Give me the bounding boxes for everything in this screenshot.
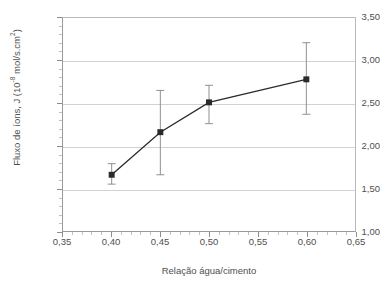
x-tick-label: 0,40 [91, 236, 131, 247]
x-minor-tick [248, 232, 249, 235]
x-minor-tick [91, 232, 92, 235]
data-point-marker [109, 172, 115, 178]
y-axis-title-exponent: -8 [9, 77, 16, 83]
x-minor-tick [72, 232, 73, 235]
x-minor-tick [189, 232, 190, 235]
x-minor-tick [140, 232, 141, 235]
x-minor-tick [297, 232, 298, 235]
y-axis-title-base: Fluxo de íons, J (10 [11, 82, 22, 165]
x-minor-tick [131, 232, 132, 235]
x-tick-mark [160, 232, 161, 237]
x-minor-tick [336, 232, 337, 235]
x-minor-tick [199, 232, 200, 235]
y-axis-title-close: ) [11, 29, 22, 32]
clipped-title [96, 0, 286, 7]
data-point-marker [303, 76, 309, 82]
x-minor-tick [170, 232, 171, 235]
x-tick-mark [209, 232, 210, 237]
x-minor-tick [82, 232, 83, 235]
x-tick-label: 0,65 [336, 236, 376, 247]
x-minor-tick [219, 232, 220, 235]
x-tick-mark [356, 232, 357, 237]
data-series-layer [63, 18, 355, 231]
chart-figure: 1,001,502,002,503,003,50 Fluxo de íons, … [0, 0, 380, 285]
x-minor-tick [180, 232, 181, 235]
x-tick-mark [111, 232, 112, 237]
x-minor-tick [327, 232, 328, 235]
x-tick-label: 0,45 [140, 236, 180, 247]
x-tick-label: 0,55 [238, 236, 278, 247]
x-minor-tick [121, 232, 122, 235]
y-axis-title: Fluxo de íons, J (10-8 mol/s.cm2) [11, 8, 22, 188]
data-point-marker [206, 99, 212, 105]
x-tick-mark [307, 232, 308, 237]
x-minor-tick [150, 232, 151, 235]
x-axis-title: Relação água/cimento [62, 265, 356, 276]
y-axis-title-tail: mol/s.cm [11, 36, 22, 77]
x-minor-tick [278, 232, 279, 235]
plot-area [62, 17, 356, 232]
x-minor-tick [346, 232, 347, 235]
x-tick-label: 0,50 [189, 236, 229, 247]
x-minor-tick [268, 232, 269, 235]
x-minor-tick [287, 232, 288, 235]
x-tick-mark [62, 232, 63, 237]
y-axis-title-tail-exponent: 2 [9, 32, 16, 36]
x-minor-tick [229, 232, 230, 235]
x-minor-tick [317, 232, 318, 235]
x-tick-mark [258, 232, 259, 237]
data-point-marker [157, 129, 163, 135]
x-tick-label: 0,60 [287, 236, 327, 247]
x-minor-tick [238, 232, 239, 235]
x-minor-tick [101, 232, 102, 235]
x-tick-label: 0,35 [42, 236, 82, 247]
